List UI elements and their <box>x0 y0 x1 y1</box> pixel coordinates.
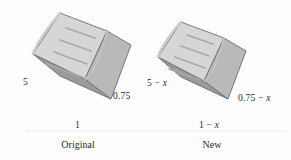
new-height-label: 0.75 − x <box>238 94 271 104</box>
new-width-variable: x <box>215 120 219 130</box>
original-soap-bar <box>33 13 131 99</box>
new-height-variable: x <box>266 93 270 103</box>
new-caption: New <box>182 140 242 150</box>
original-caption: Original <box>48 140 108 150</box>
new-width-prefix: 1 − <box>199 120 215 130</box>
new-soap-bar <box>158 22 246 99</box>
new-height-prefix: 0.75 − <box>238 93 266 103</box>
new-width-label: 1 − x <box>199 121 219 131</box>
original-length-label: 5 <box>23 78 28 88</box>
new-length-variable: x <box>163 78 167 88</box>
figure-canvas <box>0 0 291 160</box>
original-width-label: 1 <box>75 121 80 131</box>
original-height-label: 0.75 <box>113 92 130 102</box>
soap-bar-dimension-figure: 5 0.75 1 Original 5 − x 0.75 − x 1 − x N… <box>0 0 291 160</box>
new-length-label: 5 − x <box>147 79 167 89</box>
new-length-prefix: 5 − <box>147 78 163 88</box>
